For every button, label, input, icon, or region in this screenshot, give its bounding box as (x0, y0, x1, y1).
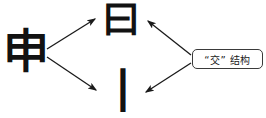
arrow-label-to-shu (146, 63, 191, 92)
arrow-shen-to-yue (47, 19, 95, 49)
character-node-component-bottom: 丨 (100, 68, 142, 114)
arrow-shen-to-shu (47, 57, 96, 90)
structure-label-text: “交” 结构 (204, 52, 251, 67)
diagram-canvas: 申 曰 丨 “交” 结构 (0, 0, 266, 118)
character-node-component-top: 曰 (100, 0, 142, 38)
structure-label-box: “交” 结构 (192, 49, 263, 69)
character-node-source: 申 (2, 28, 50, 74)
arrow-label-to-yue (148, 21, 191, 55)
